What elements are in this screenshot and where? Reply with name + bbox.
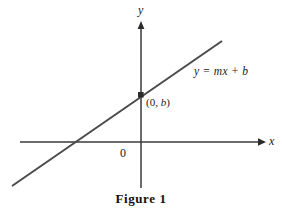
y-intercept-label: (0, b)	[146, 97, 170, 108]
x-axis-arrowhead-icon	[258, 138, 266, 146]
x-axis-label: x	[269, 135, 274, 147]
y-axis-arrowhead-icon	[138, 21, 145, 29]
y-intercept-point-marker	[138, 92, 144, 98]
intercept-label-close: )	[166, 96, 170, 108]
intercept-label-open: (0,	[146, 96, 161, 108]
y-axis	[138, 21, 145, 188]
y-axis-label: y	[138, 4, 143, 16]
x-axis	[20, 138, 266, 146]
equation-label: y = mx + b	[194, 66, 248, 78]
origin-label: 0	[120, 147, 126, 159]
figure-caption: Figure 1	[0, 191, 282, 207]
figure-container: y x 0 (0, b) y = mx + b Figure 1	[0, 0, 282, 214]
line-graph-series	[12, 41, 222, 186]
graph-canvas	[0, 0, 282, 214]
